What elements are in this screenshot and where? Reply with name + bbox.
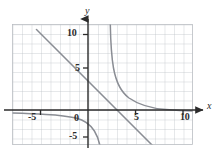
y-axis-tick-label-5: 5 — [75, 63, 80, 73]
y-axis-name-label: y — [85, 6, 89, 16]
grid-lines — [13, 25, 193, 145]
x-axis-name-label: x — [207, 101, 211, 111]
coordinate-plane-plot — [0, 0, 221, 154]
origin-label-0: 0 — [74, 113, 79, 123]
graph-figure: 10 5 -5 0 -5 5 10 y x — [0, 0, 221, 154]
y-axis-tick-label-minus-5: -5 — [69, 131, 77, 141]
x-axis-tick-label-5: 5 — [134, 112, 139, 122]
y-axis-tick-label-10: 10 — [67, 28, 77, 38]
x-axis-tick-label-minus-5: -5 — [28, 112, 36, 122]
x-axis-tick-label-10: 10 — [180, 112, 190, 122]
